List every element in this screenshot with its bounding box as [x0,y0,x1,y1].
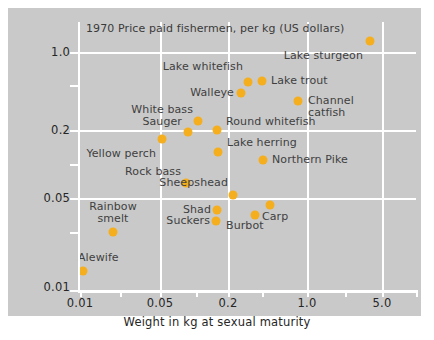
y-axis-major-tick-0 [70,52,80,54]
data-point-lake-sturgeon[interactable] [366,37,375,46]
y-tick-label-2: 0.05 [44,191,70,205]
point-label-walleye: Walleye [190,87,234,99]
scatter-plot-figure: Lake sturgeonLake whitefishLake troutWal… [0,0,434,340]
data-point-lake-trout[interactable] [258,77,267,86]
data-point-white-bass[interactable] [194,117,203,126]
y-tick-label-3: 0.01 [44,280,70,294]
x-axis-tick-1 [120,290,122,297]
x-tick-label-2: 0.2 [219,296,238,310]
plot-area: Lake sturgeonLake whitefishLake troutWal… [80,22,416,290]
point-label-sheepshead: Sheepshead [159,177,228,189]
data-point-sheepshead[interactable] [229,191,238,200]
x-tick-label-0: 0.01 [67,296,93,310]
point-label-burbot: Burbot [226,220,264,232]
point-label-lake-herring: Lake herring [227,137,297,149]
x-tick-label-3: 1.0 [298,296,317,310]
x-tick-label-1: 0.05 [147,296,173,310]
y-axis-tick-0 [70,85,80,87]
point-label-alewife: Alewife [78,252,119,264]
x-axis-tick-2 [196,290,198,297]
data-point-lake-whitefish[interactable] [244,78,253,87]
point-label-rainbow-smelt-line2: smelt [97,213,128,225]
data-point-channel-catfish[interactable] [294,97,303,106]
y-axis-spine [78,22,80,292]
point-label-carp: Carp [262,211,288,223]
x-tick-label-4: 5.0 [373,296,392,310]
x-axis-tick-5 [416,290,418,297]
data-point-northern-pike[interactable] [259,156,268,165]
gridline-vertical-3 [382,22,384,290]
data-point-suckers[interactable] [212,217,221,226]
chart-title: 1970 Price paid fishermen, per kg (US do… [86,22,344,35]
y-axis-tick-2 [70,232,80,234]
data-point-walleye[interactable] [237,89,246,98]
y-axis-major-tick-2 [70,198,80,200]
x-axis-spine [78,290,416,293]
x-axis-title: Weight in kg at sexual maturity [0,315,434,329]
point-label-lake-sturgeon: Lake sturgeon [284,50,363,62]
y-axis-tick-3 [70,290,80,292]
y-tick-label-1: 0.2 [51,123,70,137]
point-label-lake-trout: Lake trout [271,75,328,87]
point-label-northern-pike: Northern Pike [272,154,348,166]
x-axis-tick-3 [262,290,264,297]
gridline-vertical-0 [160,22,162,290]
x-axis-tick-4 [345,290,347,297]
point-label-round-whitefish: Round whitefish [226,116,316,128]
data-point-carp[interactable] [266,201,275,210]
point-label-yellow-perch: Yellow perch [86,148,156,160]
data-point-round-whitefish[interactable] [213,126,222,135]
point-label-sauger: Sauger [142,116,182,128]
data-point-lake-herring[interactable] [214,148,223,157]
data-point-rainbow-smelt[interactable] [109,228,118,237]
y-axis-major-tick-1 [70,130,80,132]
y-axis-tick-labels: 1.00.20.050.01 [8,0,70,340]
data-point-shad[interactable] [213,206,222,215]
gridline-horizontal-1 [80,130,416,132]
y-tick-label-0: 1.0 [51,45,70,59]
data-point-yellow-perch[interactable] [158,135,167,144]
y-axis-tick-1 [70,164,80,166]
point-label-lake-whitefish: Lake whitefish [163,61,243,73]
point-label-channel-catfish-line2: catfish [308,107,345,119]
point-label-suckers: Suckers [166,215,210,227]
data-point-sauger[interactable] [184,128,193,137]
gridline-horizontal-0 [80,52,416,54]
